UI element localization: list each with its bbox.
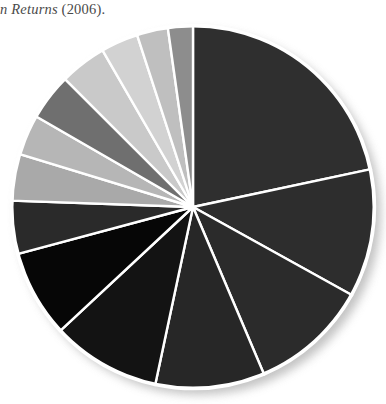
caption-italic-text: n Returns bbox=[0, 1, 58, 17]
caption-plain-text: (2006). bbox=[58, 1, 106, 17]
pie-chart-svg bbox=[7, 21, 379, 393]
pie-chart-figure bbox=[7, 21, 379, 397]
figure-caption: n Returns (2006). bbox=[0, 0, 386, 20]
